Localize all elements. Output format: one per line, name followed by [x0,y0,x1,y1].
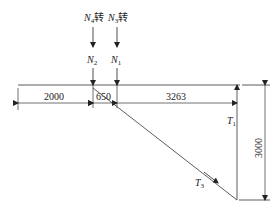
svg-text:N3转: N3转 [107,11,128,25]
n4-load: N4转 [83,11,104,47]
n3-load: N3转 [107,11,128,47]
t1-label: T1 [227,115,237,128]
t3-label: T3 [195,177,205,190]
tower-force-diagram: N4转 N3转 N2 N1 2000 650 3263 T1 T3 3000 [0,0,276,211]
dim-3263: 3263 [166,91,186,102]
dimension-line: 2000 650 3263 [18,91,237,103]
t3-member [93,88,237,200]
height-dimension: 3000 [253,85,265,200]
n1-label: N1 [110,54,122,67]
svg-text:N4转: N4转 [83,11,104,25]
n2-label: N2 [86,54,98,67]
t3-arrow [204,172,218,183]
dim-3000: 3000 [253,138,264,158]
dim-2000: 2000 [44,91,64,102]
